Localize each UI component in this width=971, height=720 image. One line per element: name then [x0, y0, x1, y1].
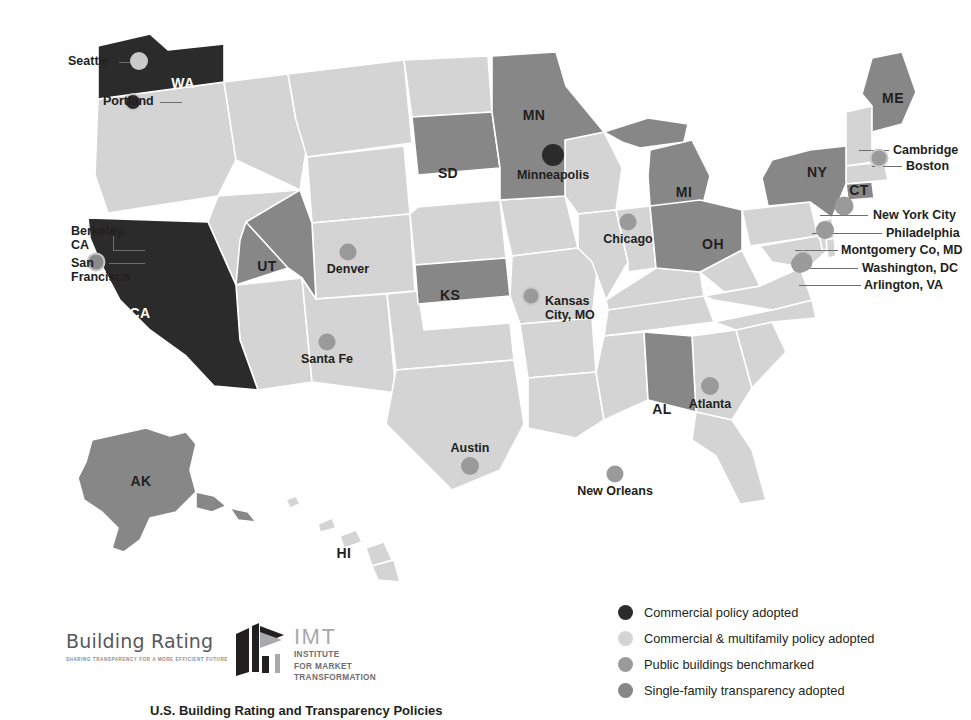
city-dot-austin[interactable]: [461, 457, 479, 475]
city-label-san-francisco: San Francisco: [71, 256, 130, 284]
imt-acronym: IMT: [294, 626, 376, 648]
city-label-austin: Austin: [451, 441, 490, 455]
legend-label-1: Commercial & multifamily policy adopted: [644, 631, 874, 646]
city-dot-atlanta[interactable]: [701, 377, 719, 395]
imt-line1: INSTITUTE: [294, 650, 376, 660]
city-label-santa-fe: Santa Fe: [301, 352, 353, 366]
building-rating-tagline: SHARING TRANSPARENCY FOR A MORE EFFICIEN…: [66, 657, 246, 662]
city-dot-arlington-va[interactable]: [791, 255, 809, 273]
imt-mark-icon: [232, 622, 290, 678]
imt-logo[interactable]: IMT INSTITUTE FOR MARKET TRANSFORMATION: [232, 620, 462, 682]
infographic-root: WACAUTSDMNMIOHKSALNYMECTAKHI SeattlePort…: [0, 0, 971, 720]
legend-item-3[interactable]: Single-family transparency adopted: [618, 678, 968, 702]
footer-logos: Building Rating SHARING TRANSPARENCY FOR…: [0, 612, 600, 692]
legend-item-2[interactable]: Public buildings benchmarked: [618, 652, 968, 676]
city-label-new-york-city: New York City: [873, 208, 956, 222]
building-rating-logo[interactable]: Building Rating SHARING TRANSPARENCY FOR…: [66, 630, 246, 662]
city-label-atlanta: Atlanta: [689, 397, 731, 411]
legend-item-1[interactable]: Commercial & multifamily policy adopted: [618, 626, 968, 650]
city-label-montgomery-co-md: Montgomery Co, MD: [841, 243, 963, 257]
legend-label-3: Single-family transparency adopted: [644, 683, 845, 698]
city-dot-kansas-city-mo[interactable]: [522, 287, 541, 306]
leader-line-washington: [806, 268, 858, 269]
map-caption: U.S. Building Rating and Transparency Po…: [150, 703, 850, 720]
city-dot-philadelphia[interactable]: [816, 221, 834, 239]
legend-swatch-icon-2: [618, 657, 633, 672]
city-label-philadelphia: Philadelphia: [886, 226, 960, 240]
city-label-berkeley-ca: Berkeley, CA: [71, 224, 126, 252]
imt-wordmark: IMT INSTITUTE FOR MARKET TRANSFORMATION: [294, 626, 376, 683]
legend-item-0[interactable]: Commercial policy adopted: [618, 600, 968, 624]
us-map-svg: [0, 0, 971, 600]
city-label-arlington-va: Arlington, VA: [864, 278, 943, 292]
legend-swatch-icon-0: [618, 605, 633, 620]
imt-line3: TRANSFORMATION: [294, 673, 376, 683]
city-dot-new-orleans[interactable]: [607, 466, 624, 483]
map-legend: Commercial policy adoptedCommercial & mu…: [618, 600, 968, 704]
city-dot-seattle[interactable]: [130, 52, 148, 70]
building-rating-name: Building Rating: [66, 630, 246, 652]
us-map: WACAUTSDMNMIOHKSALNYMECTAKHI SeattlePort…: [0, 0, 971, 600]
city-dot-denver[interactable]: [340, 244, 357, 261]
city-label-chicago: Chicago: [603, 232, 652, 246]
city-label-portland: Portland: [103, 94, 154, 108]
city-label-minneapolis: Minneapolis: [517, 168, 589, 182]
city-label-washington-dc: Washington, DC: [862, 261, 958, 275]
imt-line2: FOR MARKET: [294, 662, 376, 672]
city-label-new-orleans: New Orleans: [577, 484, 653, 498]
city-dot-chicago[interactable]: [620, 214, 637, 231]
city-label-boston: Boston: [906, 159, 949, 173]
city-dot-cambridge[interactable]: [870, 149, 889, 168]
legend-label-0: Commercial policy adopted: [644, 605, 798, 620]
city-label-kansas-city-mo: Kansas City, MO: [545, 294, 595, 322]
city-dot-new-york-city[interactable]: [835, 197, 854, 216]
legend-swatch-icon-1: [618, 631, 633, 646]
legend-label-2: Public buildings benchmarked: [644, 657, 814, 672]
city-dot-santa-fe[interactable]: [319, 334, 336, 351]
city-label-denver: Denver: [327, 262, 369, 276]
legend-swatch-icon-3: [618, 683, 633, 698]
city-dot-minneapolis[interactable]: [542, 144, 564, 166]
city-label-seattle: Seattle: [68, 54, 109, 68]
city-label-cambridge: Cambridge: [893, 143, 958, 157]
leader-line-arlington: [799, 285, 861, 286]
leader-line-portland: [160, 102, 182, 103]
